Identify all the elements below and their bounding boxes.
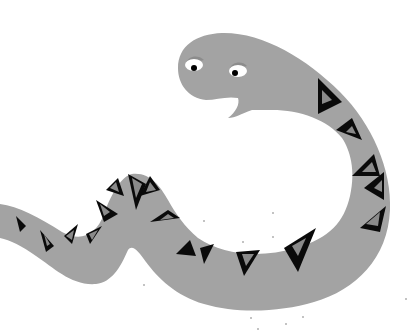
pupil-right bbox=[232, 70, 238, 76]
pupil-left bbox=[191, 65, 197, 71]
eye-right bbox=[229, 65, 247, 77]
snake-illustration bbox=[0, 0, 408, 330]
snake-body bbox=[0, 33, 390, 311]
